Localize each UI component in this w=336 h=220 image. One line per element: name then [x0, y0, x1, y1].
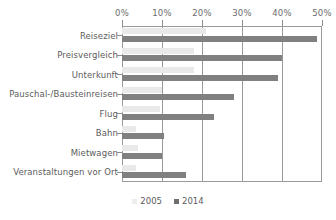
bar-2014 — [122, 114, 214, 120]
bar-group — [122, 124, 322, 144]
category-label: Reiseziel — [80, 31, 118, 41]
chart-row: Bahn — [0, 124, 336, 144]
x-tick-label: 10% — [152, 8, 172, 18]
bar-group — [122, 143, 322, 163]
category-label: Preisvergleich — [57, 50, 118, 60]
bar-group — [122, 104, 322, 124]
bar-group — [122, 26, 322, 46]
category-label: Flug — [100, 109, 118, 119]
chart-row: Veranstaltungen vor Ort — [0, 163, 336, 183]
x-tick-label: 20% — [192, 8, 212, 18]
legend-item: 2014 — [174, 196, 204, 206]
bar-2005 — [122, 28, 206, 34]
legend-swatch-2005-icon — [132, 199, 137, 204]
chart-row: Reiseziel — [0, 26, 336, 46]
bar-2005 — [122, 145, 138, 151]
chart-row: Pauschal-/Bausteinreisen — [0, 85, 336, 105]
bar-2014 — [122, 36, 317, 42]
bar-2005 — [122, 165, 136, 171]
chart-row: Preisvergleich — [0, 46, 336, 66]
bar-2014 — [122, 172, 186, 178]
bar-2005 — [122, 87, 162, 93]
bar-group — [122, 46, 322, 66]
category-label: Pauschal-/Bausteinreisen — [9, 89, 118, 99]
legend-label: 2014 — [182, 196, 204, 206]
category-label: Veranstaltungen vor Ort — [13, 167, 118, 177]
bar-2005 — [122, 67, 194, 73]
bar-2014 — [122, 153, 162, 159]
chart-rows: ReisezielPreisvergleichUnterkunftPauscha… — [0, 26, 336, 182]
legend-swatch-2014-icon — [174, 199, 179, 204]
bar-2005 — [122, 126, 136, 132]
category-label: Bahn — [96, 128, 118, 138]
category-label: Mietwagen — [71, 148, 118, 158]
legend-label: 2005 — [140, 196, 162, 206]
bar-group — [122, 163, 322, 183]
x-tick-label: 0% — [115, 8, 129, 18]
chart-row: Unterkunft — [0, 65, 336, 85]
x-tick-label: 30% — [232, 8, 252, 18]
x-axis-labels: 0%10%20%30%40%50% — [0, 8, 336, 22]
bar-2014 — [122, 55, 282, 61]
bar-chart: 0%10%20%30%40%50% ReisezielPreisvergleic… — [0, 0, 336, 220]
chart-legend: 20052014 — [0, 196, 336, 206]
bar-2005 — [122, 48, 194, 54]
bar-2014 — [122, 75, 278, 81]
bar-2014 — [122, 94, 234, 100]
x-tick-label: 40% — [272, 8, 292, 18]
chart-row: Mietwagen — [0, 143, 336, 163]
category-label: Unterkunft — [72, 70, 118, 80]
bar-2005 — [122, 106, 160, 112]
x-tick-label: 50% — [312, 8, 332, 18]
chart-row: Flug — [0, 104, 336, 124]
legend-item: 2005 — [132, 196, 162, 206]
bar-group — [122, 65, 322, 85]
bar-group — [122, 85, 322, 105]
bar-2014 — [122, 133, 164, 139]
